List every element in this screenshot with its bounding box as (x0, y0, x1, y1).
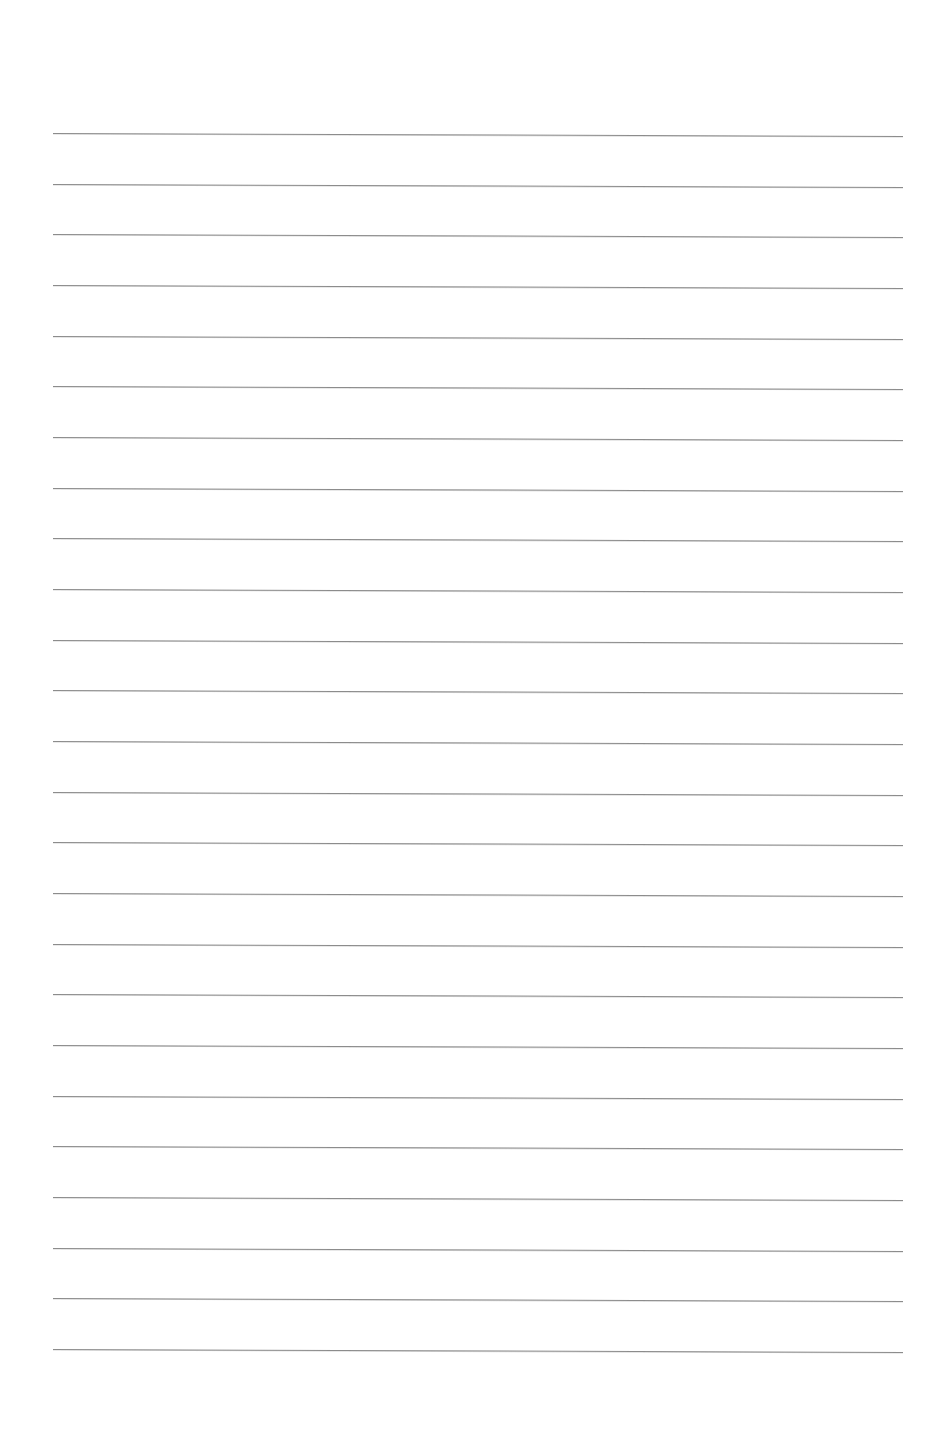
ruled-line (53, 640, 903, 644)
ruled-line (53, 1197, 903, 1201)
ruled-line (53, 589, 903, 593)
ruled-line (53, 893, 903, 897)
ruled-line (53, 1298, 903, 1302)
ruled-line (53, 234, 903, 238)
ruled-line (53, 285, 903, 289)
ruled-line (53, 336, 903, 340)
ruled-line (53, 488, 903, 492)
ruled-line (53, 538, 903, 542)
ruled-line (53, 741, 903, 745)
ruled-line (53, 1146, 903, 1150)
ruled-line (53, 133, 903, 137)
ruled-line (53, 1349, 903, 1353)
ruled-line (53, 944, 903, 948)
ruled-line (53, 386, 903, 390)
lined-paper-page (0, 0, 943, 1440)
ruled-line (53, 994, 903, 998)
ruled-line (53, 1045, 903, 1049)
ruled-line (53, 184, 903, 188)
ruled-line (53, 792, 903, 796)
ruled-line (53, 690, 903, 694)
ruled-line (53, 1096, 903, 1100)
ruled-line (53, 1248, 903, 1252)
ruled-line (53, 842, 903, 846)
ruled-line (53, 437, 903, 441)
